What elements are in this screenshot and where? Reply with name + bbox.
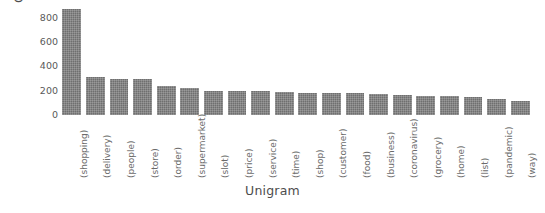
y-axis-tick-labels: 0200400600800 (31, 8, 58, 115)
x-axis-tick-label: (list) (479, 116, 492, 178)
bar (86, 77, 105, 115)
y-axis-tick-label: 400 (40, 62, 58, 72)
x-axis-tick-label: (supermarket) (196, 116, 209, 178)
x-axis-tick-label: (grocery) (432, 116, 445, 178)
bar (110, 79, 129, 115)
x-axis-tick-label: (home) (455, 116, 468, 178)
bar (369, 94, 388, 115)
x-axis-tick-label: (food) (361, 116, 374, 178)
x-axis-tick-label: (store) (149, 116, 162, 178)
bar (204, 91, 223, 115)
bar (511, 101, 530, 115)
bar (62, 9, 81, 115)
bar (228, 91, 247, 115)
bar (251, 91, 270, 115)
x-axis-tick-label: (shop) (314, 116, 327, 178)
bar (346, 93, 365, 115)
plot-area (60, 8, 532, 115)
x-axis-tick-label: (service) (267, 116, 280, 178)
bar (275, 92, 294, 115)
x-axis-tick-labels: (shopping)(delivery)(people)(store)(orde… (60, 116, 532, 178)
bar (322, 93, 341, 115)
x-axis-tick-label: (pandemic) (503, 116, 516, 178)
y-axis-tick-label: 800 (40, 13, 58, 23)
bar (133, 79, 152, 115)
bar-chart: Count 0200400600800 (shopping)(delivery)… (0, 0, 545, 213)
bar (393, 95, 412, 115)
x-axis-tick-label: (slot) (219, 116, 232, 178)
bar (157, 86, 176, 115)
bar (298, 93, 317, 115)
x-axis-tick-label: (customer) (337, 116, 350, 178)
x-axis-tick-label: (time) (290, 116, 303, 178)
bar (464, 97, 483, 115)
x-axis-tick-label: (people) (125, 116, 138, 178)
y-axis-tick-label: 600 (40, 37, 58, 47)
x-axis-tick-label: (way) (526, 116, 539, 178)
x-axis-tick-label: (shopping) (78, 116, 91, 178)
bar (440, 96, 459, 115)
y-axis-tick-label: 200 (40, 86, 58, 96)
y-axis-title: Count (8, 0, 28, 40)
bar-series (60, 8, 532, 115)
x-axis-tick-label: (order) (172, 116, 185, 178)
x-axis-tick-label: (coronavirus) (408, 116, 421, 178)
bar (180, 88, 199, 115)
x-axis-tick-label: (price) (243, 116, 256, 178)
bar (487, 99, 506, 115)
x-axis-tick-label: (business) (385, 116, 398, 178)
x-axis-title: Unigram (0, 183, 545, 198)
x-axis-tick-label: (delivery) (101, 116, 114, 178)
bar (416, 96, 435, 115)
y-axis-tick-label: 0 (52, 110, 58, 120)
